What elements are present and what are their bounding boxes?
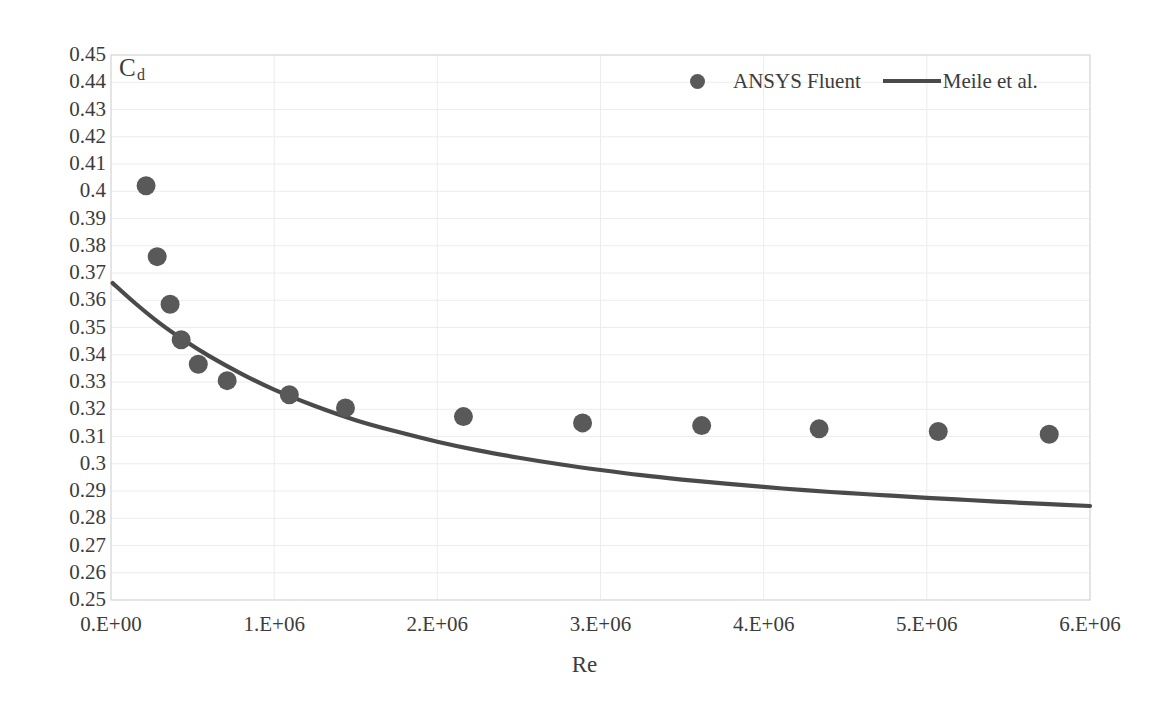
data-point [189, 355, 208, 374]
legend-marker-line-icon [883, 79, 941, 83]
y-axis-tick-label: 0.31 [34, 426, 106, 447]
x-axis-tick-label: 2.E+06 [407, 612, 468, 636]
legend-label-meile-et-al: Meile et al. [943, 69, 1038, 94]
data-point [454, 407, 473, 426]
data-point [1040, 425, 1059, 444]
y-axis-tick-label: 0.28 [34, 507, 106, 528]
y-axis-tick-label: 0.33 [34, 371, 106, 392]
x-axis-tick-label: 3.E+06 [570, 612, 631, 636]
data-point [280, 385, 299, 404]
y-axis-tick-label: 0.45 [34, 44, 106, 65]
data-point [172, 330, 191, 349]
data-point [810, 419, 829, 438]
x-axis-tick-label: 5.E+06 [896, 612, 957, 636]
y-axis-tick-label: 0.4 [34, 180, 106, 201]
legend-marker-circle-icon [690, 74, 705, 89]
data-point [692, 416, 711, 435]
data-point [573, 413, 592, 432]
x-axis-tick-label: 6.E+06 [1059, 612, 1120, 636]
legend-label-ansys-fluent: ANSYS Fluent [733, 69, 861, 94]
y-axis-tick-label: 0.35 [34, 317, 106, 338]
y-axis-tick-label: 0.37 [34, 262, 106, 283]
y-axis-tick-label: 0.27 [34, 535, 106, 556]
data-point [218, 371, 237, 390]
y-axis-tick-label: 0.42 [34, 126, 106, 147]
y-axis-tick-label: 0.43 [34, 99, 106, 120]
data-point [161, 295, 180, 314]
y-axis-tick-label: 0.32 [34, 398, 106, 419]
chart-container: 0.450.440.430.420.410.40.390.380.370.360… [0, 0, 1169, 709]
series-points-ansys-fluent [137, 176, 1059, 444]
y-axis-tick-label: 0.26 [34, 562, 106, 583]
x-axis-tick-label: 1.E+06 [243, 612, 304, 636]
y-axis-tick-label: 0.34 [34, 344, 106, 365]
y-axis-title-subscript: d [137, 66, 145, 83]
y-axis-tick-label: 0.25 [34, 589, 106, 610]
y-axis-tick-label: 0.41 [34, 153, 106, 174]
series-line-meile [113, 283, 1090, 506]
y-axis-tick-labels: 0.450.440.430.420.410.40.390.380.370.360… [34, 0, 106, 709]
plot-canvas [0, 0, 1169, 709]
y-axis-tick-label: 0.3 [34, 453, 106, 474]
data-point [336, 398, 355, 417]
y-axis-title-base: C [119, 54, 136, 81]
data-point [148, 247, 167, 266]
y-axis-title: Cd [119, 54, 144, 82]
x-axis-title: Re [0, 652, 1169, 678]
gridlines-group [111, 55, 1090, 600]
y-axis-tick-label: 0.36 [34, 289, 106, 310]
x-axis-tick-label: 0.E+00 [80, 612, 141, 636]
x-axis-tick-labels: 0.E+001.E+062.E+063.E+064.E+065.E+066.E+… [0, 612, 1169, 642]
chart-legend: ANSYS Fluent Meile et al. [690, 68, 1038, 94]
y-axis-tick-label: 0.38 [34, 235, 106, 256]
x-axis-tick-label: 4.E+06 [733, 612, 794, 636]
data-point [929, 422, 948, 441]
y-axis-tick-label: 0.44 [34, 71, 106, 92]
data-point [137, 176, 156, 195]
y-axis-tick-label: 0.39 [34, 208, 106, 229]
y-axis-tick-label: 0.29 [34, 480, 106, 501]
